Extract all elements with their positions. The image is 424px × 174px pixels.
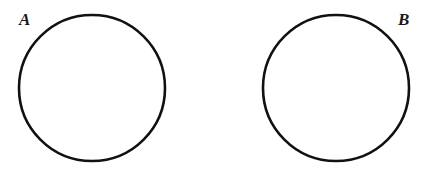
circle-a-label: A (19, 11, 30, 28)
circle-a-outline (19, 15, 165, 161)
circle-b-outline (263, 15, 409, 161)
figure-canvas: A B (0, 0, 424, 174)
circle-b-label: B (398, 11, 409, 28)
circles-diagram-svg (0, 0, 424, 174)
